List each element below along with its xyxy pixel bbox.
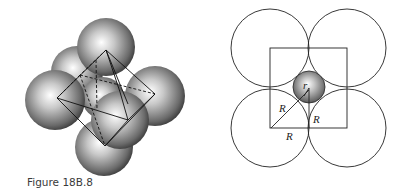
label-vertical-R: R [312, 113, 320, 125]
diagonal-radius-line [271, 90, 309, 128]
label-bottom-R: R [285, 130, 293, 142]
figure-caption: Figure 18B.8 [27, 176, 93, 188]
figure-canvas: r R R R [0, 0, 409, 196]
cross-section-diagram [231, 9, 386, 167]
sphere-top [77, 18, 135, 76]
label-diagonal-R: R [278, 102, 286, 114]
octahedral-packing-diagram [25, 18, 185, 176]
label-small-r: r [303, 79, 308, 91]
